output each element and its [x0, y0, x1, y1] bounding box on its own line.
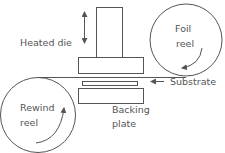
rewind-reel — [1, 78, 76, 153]
rewind-reel-label-line2: reel — [20, 117, 38, 128]
rewind-reel-circle — [1, 78, 76, 153]
diagram-canvas: Heated die Foil reel Rewind reel Substra… — [0, 0, 225, 153]
backing-plate-label-line1: Backing — [112, 104, 150, 115]
rewind-reel-rotation-arrow-icon — [36, 108, 64, 143]
heated-die-label: Heated die — [20, 37, 72, 48]
substrate-label: Substrate — [170, 76, 216, 87]
rewind-reel-label-line1: Rewind — [20, 102, 54, 113]
foil-reel-label-line2: reel — [176, 38, 194, 49]
die-head — [79, 58, 144, 74]
backing-plate — [79, 89, 144, 104]
substrate-sheet — [83, 82, 138, 86]
heated-die — [79, 8, 144, 74]
foil-reel-rotation-arrow-icon — [182, 48, 202, 68]
backing-plate-label-line2: plate — [112, 118, 136, 129]
die-column — [97, 8, 123, 58]
foil-reel-label-line1: Foil — [175, 23, 191, 34]
